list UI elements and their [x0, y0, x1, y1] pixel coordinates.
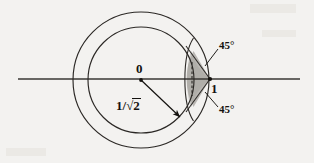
- label-unit-point: 1: [211, 82, 218, 95]
- label-angle-lower: 45°: [219, 104, 234, 115]
- label-angle-upper: 45°: [219, 40, 234, 51]
- label-radius-value: 1/√2: [116, 98, 141, 112]
- radius-arrow: [141, 80, 180, 117]
- radicand: 2: [132, 98, 141, 112]
- center-dot: [139, 78, 143, 82]
- geometry-figure: 0 1 1/√2 45° 45°: [0, 0, 314, 163]
- fraction-numerator: 1/: [116, 98, 126, 113]
- square-root-symbol: √2: [126, 98, 141, 112]
- figure-canvas: [0, 0, 314, 163]
- label-origin: 0: [136, 62, 143, 75]
- leader-line-angle-top: [205, 49, 218, 66]
